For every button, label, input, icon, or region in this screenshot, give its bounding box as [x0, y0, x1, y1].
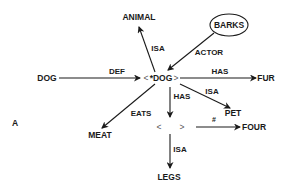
blank-node-close: > [180, 122, 185, 132]
node-meat: MEAT [88, 130, 112, 140]
blank-node-open: < [157, 122, 162, 132]
label-isa-legs: ISA [173, 145, 187, 154]
edge-eats [102, 84, 155, 128]
label-isa-pet: ISA [205, 87, 219, 96]
center-node-dog: *DOG [150, 73, 173, 83]
label-isa-animal: ISA [151, 44, 165, 53]
node-fur: FUR [257, 73, 274, 83]
node-four: FOUR [242, 122, 266, 132]
label-count: # [212, 116, 216, 123]
label-has-blank: HAS [174, 92, 192, 101]
figure-label: A [12, 118, 18, 128]
label-eats: EATS [131, 109, 152, 118]
node-animal: ANIMAL [122, 12, 155, 22]
label-actor: ACTOR [195, 48, 224, 57]
node-legs: LEGS [157, 172, 180, 182]
label-has-fur: HAS [212, 67, 230, 76]
semantic-network-diagram: ANIMAL BARKS DOG < *DOG > FUR PET MEAT <… [0, 0, 288, 196]
node-dog: DOG [37, 73, 57, 83]
node-barks: BARKS [214, 20, 245, 30]
label-def: DEF [109, 67, 125, 76]
center-node-open: < [144, 73, 149, 83]
center-node-close: > [174, 73, 179, 83]
node-pet: PET [225, 108, 242, 118]
